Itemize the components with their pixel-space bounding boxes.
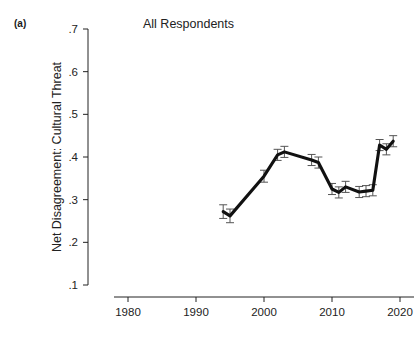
y-tick-label: .7 <box>68 23 78 35</box>
y-tick-label: .4 <box>68 151 78 163</box>
x-tick-label: 2000 <box>251 306 277 318</box>
plot-area: .1.2.3.4.5.6.7 19801990200020102020 <box>0 0 419 354</box>
y-axis-ticks: .1.2.3.4.5.6.7 <box>68 23 88 291</box>
y-tick-label: .1 <box>68 279 78 291</box>
y-tick-label: .5 <box>68 108 78 120</box>
error-bars-group <box>219 136 397 223</box>
x-tick-label: 2010 <box>319 306 345 318</box>
x-tick-label: 2020 <box>387 306 413 318</box>
figure-panel: (a) All Respondents Net Disagreement: Cu… <box>0 0 419 354</box>
data-series-line <box>223 141 393 216</box>
x-tick-label: 1980 <box>115 306 141 318</box>
y-tick-label: .6 <box>68 66 78 78</box>
x-tick-label: 1990 <box>183 306 209 318</box>
y-tick-label: .3 <box>68 194 78 206</box>
y-tick-label: .2 <box>68 236 78 248</box>
x-axis-ticks: 19801990200020102020 <box>115 297 413 318</box>
